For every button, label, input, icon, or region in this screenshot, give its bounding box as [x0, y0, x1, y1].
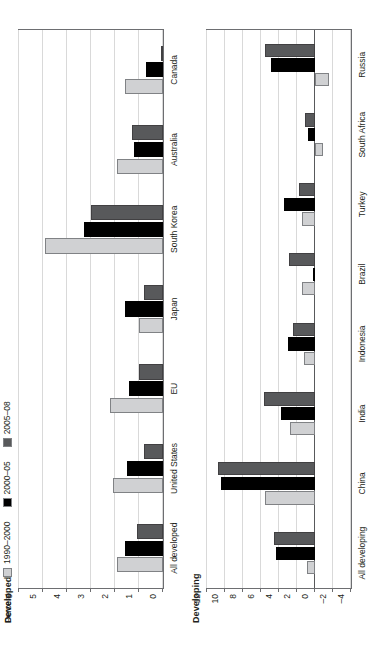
bar-group: United States [19, 429, 163, 509]
bar-200508-united-states [144, 444, 163, 459]
legend-item-2000-05: 2000–05 [2, 461, 12, 507]
category-label: United States [169, 443, 179, 494]
axis-tick-label: 0 [300, 594, 310, 599]
bar-200005-all-developed [125, 541, 163, 556]
bar-group: All developed [19, 508, 163, 588]
bar-19902000-south-africa [315, 143, 323, 156]
axis-tick-label: 6 [246, 594, 256, 599]
bar-19902000-japan [139, 318, 163, 333]
category-label: EU [169, 383, 179, 395]
bar-groups-developing: All developingChinaIndiaIndonesiaBrazilT… [207, 30, 351, 588]
bar-200508-india [264, 392, 315, 405]
bar-group: Japan [19, 269, 163, 349]
bar-group: India [207, 379, 351, 449]
bar-group: South Africa [207, 100, 351, 170]
category-label: South Africa [357, 112, 367, 158]
axis-tick-label: 5 [28, 594, 38, 599]
bar-group: South Korea [19, 189, 163, 269]
bar-200508-japan [144, 285, 163, 300]
axis-tick-label: 1 [124, 594, 134, 599]
bar-19902000-all-developing [307, 561, 315, 574]
bar-200005-indonesia [288, 337, 315, 350]
bar-200005-south-korea [84, 222, 163, 237]
legend-label-2005-08: 2005–08 [2, 401, 12, 434]
axis-tick [206, 588, 207, 592]
category-label: All developing [357, 527, 367, 580]
bar-19902000-brazil [302, 282, 316, 295]
bar-200005-eu [129, 381, 163, 396]
bar-200508-south-africa [305, 113, 315, 126]
axis-tick-label: 3 [76, 594, 86, 599]
bar-200508-turkey [299, 183, 315, 196]
bar-200005-australia [134, 142, 163, 157]
bar-200005-russia [271, 58, 315, 71]
axis-tick [260, 588, 261, 592]
bar-group: Indonesia [207, 309, 351, 379]
bar-200508-china [218, 462, 315, 475]
category-label: All developed [169, 523, 179, 574]
bar-200005-china [221, 477, 315, 490]
bar-group: All developing [207, 518, 351, 588]
category-label: Russia [357, 52, 367, 78]
bar-group: China [207, 449, 351, 519]
panel-developed: Developed 0123456 All developedUnited St… [18, 23, 186, 623]
bar-200508-indonesia [293, 323, 316, 336]
legend-label-2000-05: 2000–05 [2, 461, 12, 494]
axis-tick-label: 8 [228, 594, 238, 599]
axis-tick [242, 588, 243, 592]
axis-tick-label: 2 [100, 594, 110, 599]
axis-tick-label: –4 [336, 594, 346, 603]
category-label: Canada [169, 55, 179, 85]
plot-area-developing: –4–2024681012 All developingChinaIndiaIn… [206, 29, 352, 589]
axis-tick-label: –2 [318, 594, 328, 603]
legend-item-1990-2000: 1990–2000 [2, 521, 12, 577]
bar-200005-canada [146, 62, 163, 77]
axis-tick [138, 588, 139, 592]
axis-tick-label: 12 [192, 594, 202, 603]
panel-title-developed: Developed [3, 577, 13, 623]
figure-canvas: 1990–2000 2000–05 2005–08 Percent Develo… [0, 0, 391, 651]
bar-200508-brazil [289, 253, 315, 266]
legend-swatch-2005-08 [3, 438, 12, 447]
bar-19902000-australia [117, 159, 163, 174]
bar-19902000-china [265, 491, 315, 504]
bar-200005-united-states [127, 461, 163, 476]
category-label: China [357, 472, 367, 494]
bar-200508-russia [265, 44, 315, 57]
axis-tick [278, 588, 279, 592]
bar-200508-australia [132, 125, 163, 140]
bar-200508-eu [139, 364, 163, 379]
axis-tick [18, 588, 19, 592]
bar-200508-south-korea [91, 205, 163, 220]
bar-group: Australia [19, 110, 163, 190]
bar-19902000-india [290, 422, 315, 435]
axis-tick [314, 588, 315, 592]
bar-group: Canada [19, 30, 163, 110]
bar-group: EU [19, 349, 163, 429]
category-label: Brazil [357, 263, 367, 284]
axis-tick [296, 588, 297, 592]
category-label: South Korea [169, 206, 179, 253]
category-label: Turkey [357, 192, 367, 218]
category-label: Indonesia [357, 325, 367, 362]
bar-19902000-turkey [302, 212, 315, 225]
bar-19902000-canada [125, 79, 163, 94]
bar-200005-south-africa [308, 128, 315, 141]
axis-tick [90, 588, 91, 592]
bar-200005-all-developing [276, 547, 315, 560]
legend-item-2005-08: 2005–08 [2, 401, 12, 447]
axis-tick-label: 4 [52, 594, 62, 599]
bar-19902000-indonesia [304, 352, 315, 365]
bar-19902000-south-korea [45, 238, 163, 253]
axis-tick [66, 588, 67, 592]
panel-developing: Developing –4–2024681012 All developingC… [206, 23, 374, 623]
axis-tick [162, 588, 163, 592]
axis-tick [114, 588, 115, 592]
category-label: Australia [169, 133, 179, 166]
legend-label-1990-2000: 1990–2000 [2, 521, 12, 564]
legend-swatch-2000-05 [3, 498, 12, 507]
bar-200508-canada [161, 46, 163, 61]
bar-group: Turkey [207, 170, 351, 240]
axis-tick-label: 0 [148, 594, 158, 599]
bar-19902000-russia [315, 73, 329, 86]
